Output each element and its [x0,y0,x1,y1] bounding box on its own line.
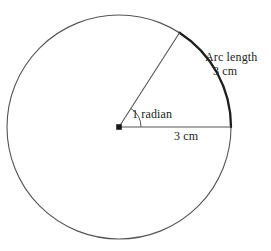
highlighted-arc [180,33,231,127]
radian-diagram-figure: Arc length 3 cm 1 radian 3 cm [0,0,271,251]
radius-value-label: 3 cm [174,130,198,143]
central-angle-label: 1 radian [132,108,172,121]
center-point-marker [116,124,122,130]
arc-length-value-label: 3 cm [213,65,237,78]
radian-diagram-svg [0,0,271,251]
arc-length-label: Arc length [205,51,257,64]
